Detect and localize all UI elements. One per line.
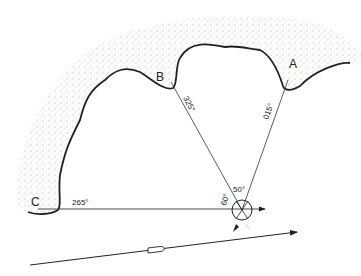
angle-label-BC: 60° [219,192,231,206]
diagram-canvas: B A C 325° 015° 265° 50° 60° [0,0,361,276]
angle-label-AB: 50° [233,185,245,194]
point-label-A: A [289,57,297,71]
fix-tick-right-icon [246,224,251,231]
bearing-line-B [171,82,242,210]
fix-tick-left-icon [233,224,239,232]
bearing-line-A [242,80,288,210]
point-label-C: C [31,195,40,209]
bearing-fix-diagram: B A C 325° 015° 265° 50° 60° [0,0,361,276]
bearing-label-A: 015° [261,102,275,121]
point-label-B: B [156,70,164,84]
ship-icon [148,246,164,253]
bearing-label-C: 265° [72,198,89,207]
